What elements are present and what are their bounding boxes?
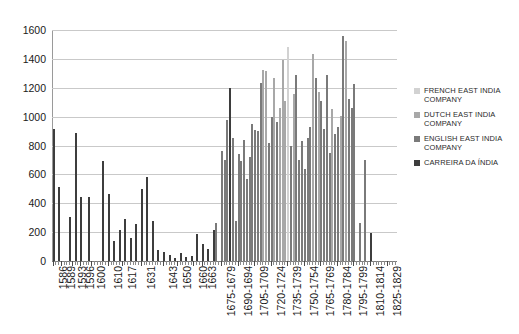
x-tick xyxy=(298,261,299,265)
x-tick xyxy=(88,261,89,265)
bar xyxy=(224,160,226,261)
legend-swatch-icon xyxy=(414,88,420,94)
bar xyxy=(229,88,231,261)
x-tick xyxy=(334,261,335,265)
bar xyxy=(351,108,353,261)
x-tick xyxy=(307,261,308,265)
x-tick xyxy=(169,261,170,265)
x-tick xyxy=(229,261,230,265)
bar xyxy=(271,117,273,261)
x-tick xyxy=(185,261,186,265)
y-tick-label-1200: 1200 xyxy=(4,82,46,94)
x-tick xyxy=(196,261,197,265)
x-tick-label: 1663 xyxy=(206,266,218,289)
x-tick xyxy=(77,261,78,265)
bar xyxy=(312,54,314,261)
x-tick-label: 1795-1799 xyxy=(357,266,369,316)
y-tick-label-400: 400 xyxy=(4,197,46,209)
x-tick-label: 1617 xyxy=(126,266,138,289)
legend-label: FRENCH EAST INDIA COMPANY xyxy=(424,86,517,104)
y-tick-label-1400: 1400 xyxy=(4,53,46,65)
bar xyxy=(323,129,325,261)
bar xyxy=(53,129,55,261)
bar xyxy=(238,154,240,261)
x-tick xyxy=(364,261,365,265)
bar xyxy=(284,101,286,261)
legend-swatch-icon xyxy=(414,136,420,142)
y-tick-label-800: 800 xyxy=(4,140,46,152)
legend-item[interactable]: DUTCH EAST INDIA COMPANY xyxy=(414,110,517,128)
x-tick xyxy=(166,261,167,265)
bar xyxy=(243,140,245,261)
bar xyxy=(260,83,262,261)
x-tick-label: 1643 xyxy=(167,266,179,289)
x-tick xyxy=(351,261,352,265)
x-tick-label: 1705-1709 xyxy=(258,266,270,316)
x-tick-label: 1631 xyxy=(145,266,157,289)
x-tick xyxy=(138,261,139,265)
bar xyxy=(342,36,344,261)
x-tick xyxy=(144,261,145,265)
bar xyxy=(268,143,270,261)
bar xyxy=(69,217,71,261)
y-tick-label-0: 0 xyxy=(4,255,46,267)
bar xyxy=(309,127,311,261)
bar xyxy=(135,224,137,261)
x-tick xyxy=(378,261,379,265)
x-tick xyxy=(215,261,216,265)
x-tick-label: 1650 xyxy=(181,266,193,289)
bar xyxy=(180,253,182,261)
plot-area xyxy=(52,30,397,261)
x-tick xyxy=(232,261,233,265)
x-tick xyxy=(268,261,269,265)
x-tick xyxy=(94,261,95,265)
x-tick xyxy=(389,261,390,265)
x-tick xyxy=(146,261,147,265)
x-tick xyxy=(191,261,192,265)
x-tick xyxy=(100,261,101,265)
x-tick xyxy=(290,261,291,265)
x-tick xyxy=(381,261,382,265)
bar xyxy=(240,161,242,261)
bar xyxy=(119,230,121,261)
x-tick xyxy=(295,261,296,265)
x-tick xyxy=(279,261,280,265)
legend-item[interactable]: ENGLISH EAST INDIA COMPANY xyxy=(414,134,517,152)
x-tick xyxy=(384,261,385,265)
x-tick xyxy=(207,261,208,265)
x-tick xyxy=(174,261,175,265)
legend-item[interactable]: CARREIRA DA ÍNDIA xyxy=(414,158,517,167)
legend-swatch-icon xyxy=(414,112,420,118)
bar xyxy=(331,109,333,261)
x-tick xyxy=(331,261,332,265)
x-tick xyxy=(111,261,112,265)
bar xyxy=(235,221,237,261)
bar xyxy=(157,250,159,261)
x-tick xyxy=(119,261,120,265)
x-tick xyxy=(127,261,128,265)
x-tick xyxy=(182,261,183,265)
x-tick xyxy=(345,261,346,265)
x-tick xyxy=(260,261,261,265)
bar xyxy=(287,47,289,261)
x-tick xyxy=(373,261,374,265)
x-tick xyxy=(133,261,134,265)
x-tick-label: 1735-1739 xyxy=(291,266,303,316)
bar xyxy=(232,138,234,261)
x-tick xyxy=(69,261,70,265)
x-tick xyxy=(235,261,236,265)
x-tick xyxy=(135,261,136,265)
x-tick xyxy=(155,261,156,265)
bar xyxy=(337,127,339,261)
x-tick xyxy=(218,261,219,265)
x-tick xyxy=(149,261,150,265)
x-tick xyxy=(243,261,244,265)
bar xyxy=(215,223,217,261)
bar xyxy=(124,219,126,261)
bar xyxy=(273,78,275,261)
x-tick xyxy=(240,261,241,265)
legend-item[interactable]: FRENCH EAST INDIA COMPANY xyxy=(414,86,517,104)
bar xyxy=(315,78,317,261)
x-tick xyxy=(329,261,330,265)
x-tick xyxy=(116,261,117,265)
